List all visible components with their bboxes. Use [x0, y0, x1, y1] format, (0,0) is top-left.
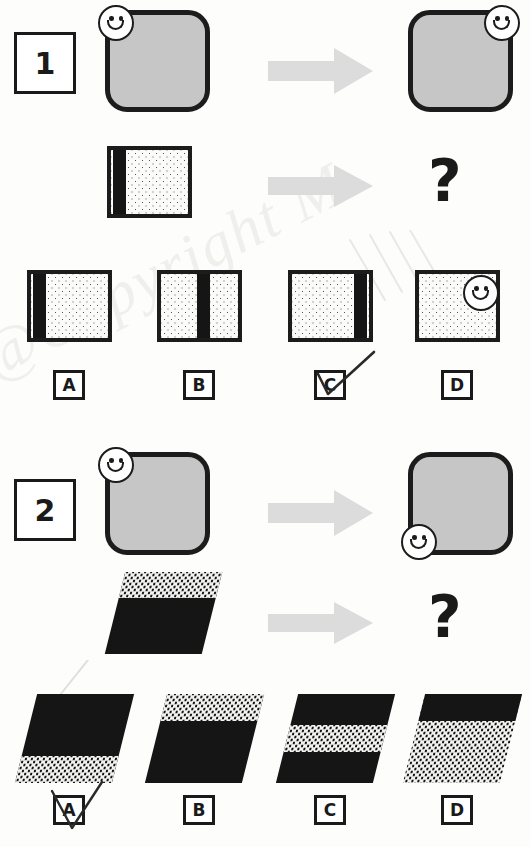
right-arrow-icon: [268, 602, 373, 644]
right-arrow-icon: [268, 490, 373, 536]
q2-option-b-letter: B: [193, 800, 206, 820]
parallelogram-body: [403, 694, 522, 783]
question-number-1: 1: [35, 46, 56, 81]
question-number-box-1: 1: [14, 32, 76, 94]
black-bar-left: [33, 274, 46, 338]
right-arrow-icon: [268, 48, 373, 94]
q1-option-b-box[interactable]: B: [183, 370, 215, 400]
smiley-mouth-icon: [493, 20, 510, 30]
q2-option-c-box[interactable]: C: [314, 795, 346, 825]
q2-option-b-box[interactable]: B: [183, 795, 215, 825]
q1-prompt-right-figure: [408, 10, 513, 112]
q1-option-c-box[interactable]: C: [314, 370, 346, 400]
smiley-face-icon: [98, 5, 134, 41]
smiley-mouth-icon: [107, 20, 124, 30]
smiley-face-icon: [401, 524, 437, 560]
black-bar-right: [354, 274, 367, 338]
q1-option-d-letter: D: [450, 375, 464, 395]
q1-question-left-figure: [107, 146, 192, 218]
q2-answer-placeholder: ?: [428, 588, 462, 646]
question-number-box-2: 2: [14, 479, 76, 541]
q2-option-b-figure[interactable]: [156, 694, 253, 783]
black-band-top: [408, 694, 522, 721]
q2-question-left-figure: [115, 572, 212, 654]
worksheet-page: @Copyright M 1: [0, 0, 531, 847]
smiley-face-icon: [98, 447, 134, 483]
q2-option-a-box[interactable]: A: [53, 795, 85, 825]
black-bar-middle: [197, 274, 210, 338]
smiley-mouth-icon: [410, 539, 427, 549]
stippled-band-middle: [276, 725, 395, 752]
q1-option-d-box[interactable]: D: [441, 370, 473, 400]
q1-answer-placeholder: ?: [428, 152, 462, 210]
q1-prompt-left-figure: [105, 10, 210, 112]
stippled-band-top: [150, 694, 264, 721]
q2-option-a-figure[interactable]: [26, 694, 123, 783]
stippled-band-top: [109, 572, 222, 598]
question-number-2: 2: [35, 493, 56, 528]
q1-option-b-figure[interactable]: [157, 270, 242, 342]
q2-option-d-letter: D: [450, 800, 464, 820]
q1-option-a-box[interactable]: A: [53, 370, 85, 400]
stippled-band-bottom: [15, 756, 129, 783]
parallelogram-body: [105, 572, 222, 654]
parallelogram-body: [145, 694, 264, 783]
smiley-mouth-icon: [107, 462, 124, 472]
q1-option-c-figure[interactable]: [288, 270, 373, 342]
right-arrow-icon: [268, 165, 373, 207]
q1-option-a-letter: A: [62, 375, 75, 395]
q2-option-c-letter: C: [324, 800, 336, 820]
q2-prompt-right-figure: [408, 452, 513, 555]
smiley-face-icon: [463, 275, 499, 311]
smiley-face-icon: [484, 5, 520, 41]
q2-option-a-letter: A: [62, 800, 75, 820]
q2-prompt-left-figure: [105, 452, 210, 555]
q1-option-b-letter: B: [193, 375, 206, 395]
black-bar-left: [113, 150, 126, 214]
q1-option-c-letter: C: [324, 375, 336, 395]
q2-option-d-figure[interactable]: [414, 694, 511, 783]
parallelogram-body: [276, 694, 395, 783]
q2-option-c-figure[interactable]: [287, 694, 384, 783]
smiley-mouth-icon: [472, 290, 489, 300]
q2-option-d-box[interactable]: D: [441, 795, 473, 825]
q1-option-a-figure[interactable]: [27, 270, 112, 342]
parallelogram-body: [15, 694, 134, 783]
